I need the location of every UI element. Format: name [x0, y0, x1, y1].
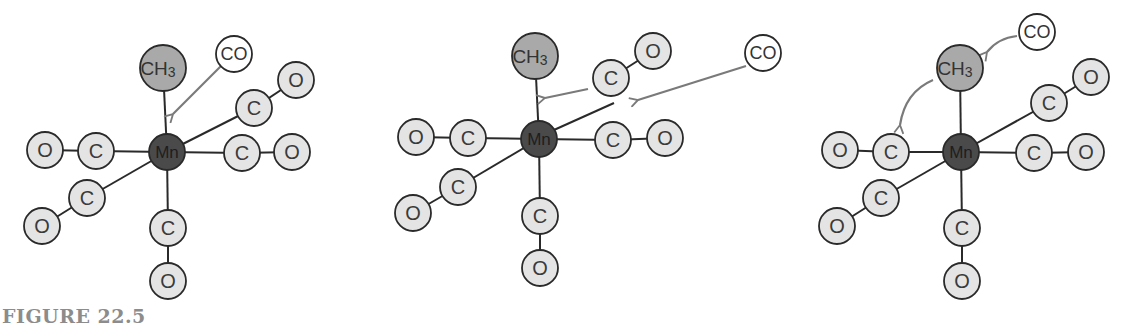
carbon-atom: C: [873, 134, 909, 170]
oxygen-atom: O: [395, 195, 431, 231]
svg-text:C: C: [874, 187, 888, 209]
svg-text:CO: CO: [1024, 22, 1051, 42]
carbon-atom: C: [944, 210, 980, 246]
oxygen-atom: O: [150, 263, 186, 299]
svg-text:C: C: [1042, 92, 1056, 114]
carbon-atom: C: [863, 180, 899, 216]
svg-text:C: C: [604, 67, 618, 89]
carbon-atom: C: [593, 60, 629, 96]
svg-text:C: C: [451, 176, 465, 198]
svg-text:O: O: [37, 139, 53, 161]
oxygen-atom: O: [1068, 134, 1104, 170]
oxygen-atom: O: [1073, 59, 1109, 95]
mechanism-diagram: CH3 CO Mn C O C O C O C O C O: [0, 0, 1126, 331]
svg-text:O: O: [657, 127, 673, 149]
svg-text:C: C: [1027, 142, 1041, 164]
oxygen-atom: O: [819, 208, 855, 244]
carbon-atom: C: [522, 198, 558, 234]
free-co: CO: [216, 36, 252, 72]
methyl-group: CH3: [937, 45, 983, 91]
oxygen-atom: O: [522, 250, 558, 286]
oxygen-atom: O: [944, 263, 980, 299]
attack-arrow: [638, 66, 746, 100]
methyl-group: CH3: [512, 33, 558, 79]
svg-text:C: C: [80, 187, 94, 209]
svg-text:CO: CO: [750, 43, 777, 63]
svg-text:O: O: [1078, 141, 1094, 163]
svg-text:C: C: [606, 129, 620, 151]
svg-text:O: O: [288, 69, 304, 91]
oxygen-atom: O: [27, 132, 63, 168]
svg-text:C: C: [884, 141, 898, 163]
oxygen-atom: O: [647, 120, 683, 156]
svg-text:Mn: Mn: [527, 130, 551, 149]
svg-text:O: O: [645, 40, 661, 62]
oxygen-atom: O: [635, 33, 671, 69]
oxygen-atom: O: [822, 132, 858, 168]
svg-text:O: O: [405, 202, 421, 224]
carbon-atom: C: [150, 210, 186, 246]
migration-arrow: [545, 89, 588, 98]
metal-center: Mn: [149, 134, 185, 170]
panel-3: CH3 CO Mn C O C O C O C O C O: [819, 14, 1109, 299]
svg-text:C: C: [161, 217, 175, 239]
svg-text:C: C: [89, 140, 103, 162]
oxygen-atom: O: [24, 208, 60, 244]
svg-text:O: O: [408, 126, 424, 148]
svg-text:O: O: [1083, 66, 1099, 88]
panel-2: CH3 CO Mn C O C O C O C O C O: [395, 33, 781, 286]
carbon-atom: C: [595, 122, 631, 158]
svg-text:Mn: Mn: [949, 143, 973, 162]
attack-arrow: [987, 36, 1017, 52]
metal-center: Mn: [943, 134, 979, 170]
panel-1: CH3 CO Mn C O C O C O C O C O: [24, 36, 314, 299]
svg-text:C: C: [533, 205, 547, 227]
svg-text:O: O: [284, 141, 300, 163]
svg-text:C: C: [247, 97, 261, 119]
carbon-atom: C: [236, 90, 272, 126]
migration-arrow: [900, 80, 933, 125]
methyl-group: CH3: [140, 45, 186, 91]
carbon-atom: C: [69, 180, 105, 216]
oxygen-atom: O: [278, 62, 314, 98]
svg-text:C: C: [955, 217, 969, 239]
carbon-atom: C: [1031, 85, 1067, 121]
svg-text:C: C: [235, 142, 249, 164]
carbon-atom: C: [440, 169, 476, 205]
svg-text:CO: CO: [221, 44, 248, 64]
svg-text:O: O: [829, 215, 845, 237]
metal-center: Mn: [521, 121, 557, 157]
svg-text:O: O: [832, 139, 848, 161]
svg-text:O: O: [160, 270, 176, 292]
carbon-atom: C: [450, 120, 486, 156]
oxygen-atom: O: [274, 134, 310, 170]
svg-text:C: C: [461, 127, 475, 149]
carbon-atom: C: [1016, 135, 1052, 171]
figure-caption: FIGURE 22.5: [2, 305, 146, 327]
svg-text:O: O: [34, 215, 50, 237]
svg-text:Mn: Mn: [155, 143, 179, 162]
carbon-atom: C: [224, 135, 260, 171]
svg-text:O: O: [954, 270, 970, 292]
free-co: CO: [1019, 14, 1055, 50]
svg-text:O: O: [532, 257, 548, 279]
carbon-atom: C: [78, 133, 114, 169]
free-co: CO: [745, 35, 781, 71]
oxygen-atom: O: [398, 119, 434, 155]
